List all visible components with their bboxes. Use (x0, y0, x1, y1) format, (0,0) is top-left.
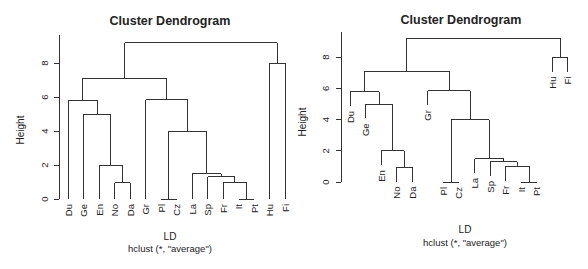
leaf-label-pt: Pt (249, 204, 260, 213)
left-chart-title: Cluster Dendrogram (110, 14, 231, 28)
leaf-label-fi: Fi (280, 204, 291, 212)
leaf-label-gr: Gr (422, 110, 433, 121)
leaf-label-hu: Hu (264, 204, 275, 216)
leaf-label-fr: Fr (218, 204, 229, 213)
leaf-label-pl: Pl (156, 204, 167, 212)
leaf-label-da: Da (407, 186, 418, 199)
left-dendrogram-tree (68, 43, 285, 199)
leaf-label-sp: Sp (485, 181, 496, 193)
leaf-label-pt: Pt (531, 187, 542, 196)
leaf-label-en: En (376, 170, 387, 182)
y-tick-label: 0 (320, 179, 331, 184)
y-tick-label: 0 (39, 196, 50, 201)
leaf-label-ge: Ge (78, 204, 89, 217)
right-chart-title: Cluster Dendrogram (401, 13, 522, 27)
left-x-axis-label: LD (164, 231, 177, 242)
leaf-label-du: Du (345, 111, 356, 123)
left-y-ticks: 02468 (39, 60, 59, 201)
leaf-label-la: La (469, 177, 480, 188)
leaf-label-no: No (391, 187, 402, 199)
leaf-label-fi: Fi (562, 77, 573, 85)
y-tick-label: 4 (39, 128, 50, 133)
figure: Cluster Dendrogram Height 02468 DuGeEnNo… (0, 0, 588, 269)
leaf-label-pl: Pl (438, 187, 449, 195)
leaf-label-la: La (187, 203, 198, 214)
y-tick-label: 8 (39, 60, 50, 65)
left-leaf-labels: DuGeEnNoDaGrPlCzLaSpFrItPtHuFi (63, 203, 291, 216)
leaf-label-gr: Gr (140, 204, 151, 215)
leaf-label-it: It (516, 187, 527, 193)
leaf-label-sp: Sp (202, 204, 213, 216)
y-tick-label: 2 (320, 148, 331, 153)
right-dendrogram-tree (350, 38, 568, 182)
right-method-sublabel: hclust (*, "average") (423, 237, 507, 248)
leaf-label-du: Du (63, 204, 74, 216)
leaf-label-fr: Fr (500, 186, 511, 195)
right-x-axis-label: LD (459, 224, 472, 235)
leaf-label-da: Da (125, 203, 136, 216)
leaf-label-ge: Ge (360, 123, 371, 136)
leaf-label-hu: Hu (547, 77, 558, 89)
leaf-label-en: En (94, 204, 105, 216)
y-tick-label: 6 (39, 94, 50, 99)
right-dendrogram-panel: Cluster Dendrogram Height 02468 DuGeEnNo… (297, 13, 573, 248)
y-tick-label: 6 (320, 86, 331, 91)
left-method-sublabel: hclust (*, "average") (128, 243, 212, 254)
right-y-axis-label: Height (297, 107, 308, 136)
right-y-ticks: 02468 (320, 55, 341, 185)
y-tick-label: 4 (320, 117, 331, 122)
leaf-label-cz: Cz (171, 204, 182, 216)
left-dendrogram-panel: Cluster Dendrogram Height 02468 DuGeEnNo… (15, 14, 291, 254)
leaf-label-no: No (109, 204, 120, 216)
left-y-axis-label: Height (15, 115, 26, 144)
leaf-label-it: It (233, 204, 244, 210)
dendrogram-figure: Cluster Dendrogram Height 02468 DuGeEnNo… (0, 0, 588, 269)
y-tick-label: 8 (320, 55, 331, 60)
leaf-label-cz: Cz (453, 187, 464, 199)
y-tick-label: 2 (39, 162, 50, 167)
